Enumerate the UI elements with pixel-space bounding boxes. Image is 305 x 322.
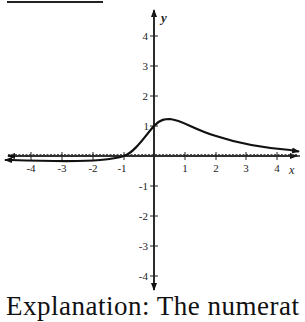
x-tick-label: 3 [243,162,249,174]
x-tick-label: 1 [182,162,188,174]
function-graph: -4 -3 -2 -1 1 2 3 4 4 3 2 1 -1 -2 -3 -4 … [0,0,305,295]
y-tick-label: -1 [139,180,148,192]
y-tick-label: 1 [144,120,150,132]
x-axis-label: x [288,163,295,177]
x-tick-label: -3 [57,162,67,174]
y-tick-label: 4 [143,30,149,42]
x-tick-label: -4 [26,162,36,174]
x-tick-label: -1 [117,162,126,174]
y-tick-label: -2 [139,210,148,222]
y-tick-label: -3 [139,240,149,252]
explanation-text: Explanation: The numerat [6,291,299,322]
y-axis-label: y [159,10,167,25]
y-tick-label: 3 [143,60,149,72]
x-tick-label: 2 [213,162,219,174]
x-tick-label: -2 [88,162,97,174]
y-tick-label: -4 [139,270,149,282]
y-tick-label: 2 [143,90,149,102]
x-tick-label: 4 [274,162,280,174]
